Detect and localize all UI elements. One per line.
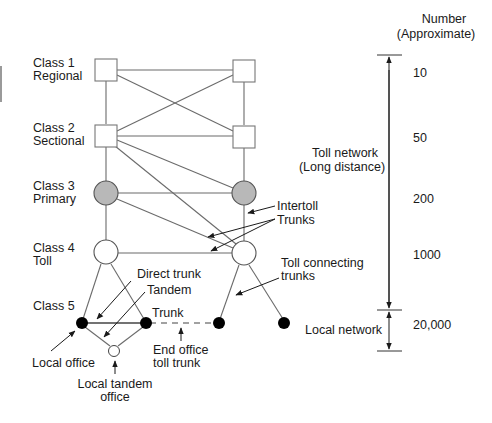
- class5-node-3: [213, 317, 225, 329]
- toll-connecting-label: Toll connecting: [281, 256, 364, 270]
- number-header-line1: Number: [422, 12, 466, 26]
- end-office-label: End office: [153, 343, 208, 357]
- class3-label: Class 3: [33, 179, 75, 193]
- local-tandem-node: [109, 346, 120, 357]
- class4-node-left: [94, 240, 118, 264]
- class1-label: Class 1: [33, 56, 75, 70]
- class2-label: Class 2: [33, 121, 75, 135]
- intertoll-label: Intertoll: [277, 199, 318, 213]
- class1-sublabel: Regional: [33, 69, 82, 83]
- class3-node-left: [94, 181, 118, 205]
- class3-node-right: [232, 181, 256, 205]
- edge-bar: [0, 66, 2, 102]
- class1-node-left: [95, 59, 117, 81]
- class2-node-left: [95, 125, 117, 147]
- network-edges: [82, 70, 283, 346]
- class1-node-right: [233, 60, 255, 82]
- class3-sublabel: Primary: [33, 192, 77, 206]
- toll-network-label: Toll network: [312, 146, 379, 160]
- trunk-label: Trunk: [152, 306, 184, 320]
- class5-node-1: [76, 317, 88, 329]
- toll-hierarchy-diagram: Number (Approximate) Class 1 Regional Cl…: [0, 0, 492, 423]
- local-tandem-sublabel: office: [100, 390, 130, 404]
- class4-label: Class 4: [33, 241, 75, 255]
- count-class1: 10: [413, 66, 427, 80]
- intertoll-sublabel: Trunks: [277, 213, 315, 227]
- class4-sublabel: Toll: [33, 254, 52, 268]
- count-class4: 1000: [413, 248, 441, 262]
- class2-sublabel: Sectional: [33, 134, 84, 148]
- class5-label: Class 5: [33, 299, 75, 313]
- local-network-label: Local network: [305, 323, 383, 337]
- tandem-label: Tandem: [147, 283, 191, 297]
- direct-trunk-label: Direct trunk: [137, 267, 202, 281]
- local-tandem-label: Local tandem: [77, 377, 152, 391]
- class5-node-2: [140, 317, 152, 329]
- count-class2: 50: [413, 131, 427, 145]
- class5-node-4: [278, 317, 290, 329]
- class2-node-right: [233, 126, 255, 148]
- number-header-line2: (Approximate): [397, 27, 476, 41]
- end-office-sublabel: toll trunk: [153, 356, 201, 370]
- toll-connecting-sublabel: trunks: [281, 269, 315, 283]
- local-office-label: Local office: [32, 356, 95, 370]
- count-class5: 20,000: [413, 318, 451, 332]
- count-class3: 200: [413, 192, 434, 206]
- toll-network-sublabel: (Long distance): [299, 160, 385, 174]
- range-brackets: [377, 55, 402, 351]
- class4-node-right: [232, 241, 256, 265]
